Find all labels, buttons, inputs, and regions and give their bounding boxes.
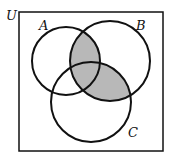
universe-label: U [6, 8, 18, 23]
venn-diagram: U A B C [0, 0, 173, 159]
set-c-label: C [128, 125, 138, 140]
shaded-region [32, 27, 131, 142]
set-b-label: B [135, 18, 146, 33]
set-a-label: A [38, 18, 48, 33]
